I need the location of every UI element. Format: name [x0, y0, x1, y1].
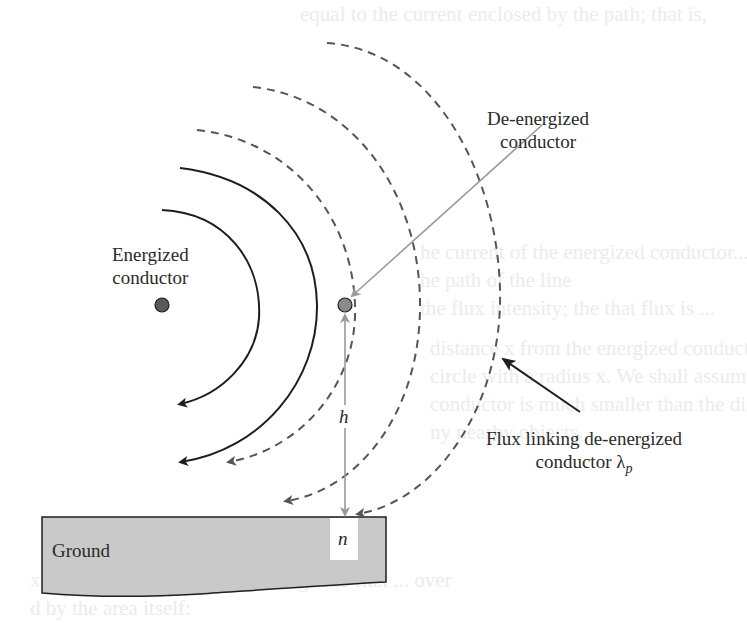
label-line: conductor — [112, 266, 189, 289]
label-line: Flux linking de-energized — [486, 427, 682, 450]
flux-line-solid-outer — [180, 168, 317, 462]
flux-line-solid-inner — [162, 210, 259, 404]
de-energized-conductor-label: De-energized conductor — [487, 107, 589, 153]
energized-conductor-label: Energized conductor — [112, 243, 189, 289]
flux-linking-pointer — [503, 359, 580, 412]
height-label: h — [339, 405, 349, 428]
subscript-p: p — [625, 461, 632, 476]
label-text: conductor λ — [536, 451, 626, 472]
label-line: conductor λp — [486, 450, 682, 480]
ground-label: Ground — [52, 539, 110, 562]
de-energized-conductor — [338, 298, 352, 312]
label-line: De-energized — [487, 107, 589, 130]
label-line: conductor — [487, 130, 589, 153]
flux-linking-label: Flux linking de-energized conductor λp — [486, 427, 682, 480]
flux-line-dashed-2 — [253, 87, 420, 501]
label-line: Energized — [112, 243, 189, 266]
energized-conductor — [155, 298, 169, 312]
flux-linkage-diagram — [0, 0, 747, 623]
neutral-label: n — [338, 527, 348, 550]
